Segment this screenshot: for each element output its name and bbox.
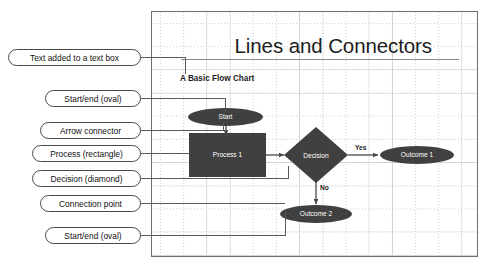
callout-end-oval-label: Start/end (oval) xyxy=(64,231,121,241)
callout-process-rectangle[interactable]: Process (rectangle) xyxy=(32,145,141,162)
leader-line-decision-h xyxy=(140,178,288,179)
callout-decision-diamond-label: Decision (diamond) xyxy=(50,174,122,184)
leader-line-endoval-h xyxy=(140,235,285,236)
callout-arrow-connector-label: Arrow connector xyxy=(60,126,121,136)
leader-line-arrow-h xyxy=(140,130,223,131)
callout-text-box-label: Text added to a text box xyxy=(30,53,119,63)
leader-line-process-h xyxy=(140,153,190,154)
leader-line-connection-h xyxy=(140,203,285,204)
callout-start-oval-label: Start/end (oval) xyxy=(64,94,121,104)
callout-end-oval[interactable]: Start/end (oval) xyxy=(45,227,141,244)
flow-node-outcome1-label: Outcome 1 xyxy=(401,152,433,159)
edge-label-no: No xyxy=(320,184,329,191)
callout-text-box[interactable]: Text added to a text box xyxy=(8,49,141,66)
edge-label-yes: Yes xyxy=(355,144,366,151)
flow-node-outcome2-label: Outcome 2 xyxy=(300,211,332,218)
leader-line-decision-v xyxy=(288,166,289,179)
flow-node-decision[interactable]: Decision xyxy=(284,127,348,183)
callout-connection-point[interactable]: Connection point xyxy=(40,195,141,212)
callout-process-rectangle-label: Process (rectangle) xyxy=(50,149,123,159)
leader-line-arrow-v xyxy=(223,123,224,131)
flow-node-outcome2[interactable]: Outcome 2 xyxy=(280,205,352,223)
flow-node-start-label: Start xyxy=(219,114,233,121)
callout-arrow-connector[interactable]: Arrow connector xyxy=(40,122,141,139)
callout-connection-point-label: Connection point xyxy=(59,199,122,209)
leader-line-textbox-v xyxy=(185,57,186,74)
leader-line-textbox-h xyxy=(140,57,185,58)
slide-canvas: Lines and Connectors A Basic Flow Chart … xyxy=(151,11,478,257)
leader-line-startoval-h xyxy=(140,98,225,99)
slide-annotation-figure: Lines and Connectors A Basic Flow Chart … xyxy=(0,0,485,268)
callout-start-oval[interactable]: Start/end (oval) xyxy=(45,90,141,107)
flow-node-decision-label: Decision xyxy=(284,127,348,183)
leader-line-startoval-v xyxy=(225,98,226,112)
flow-node-outcome1[interactable]: Outcome 1 xyxy=(380,146,454,164)
leader-line-endoval-v xyxy=(285,212,286,236)
flow-node-process-label: Process 1 xyxy=(213,152,242,159)
flow-node-process[interactable]: Process 1 xyxy=(189,133,266,177)
callout-decision-diamond[interactable]: Decision (diamond) xyxy=(32,170,141,187)
